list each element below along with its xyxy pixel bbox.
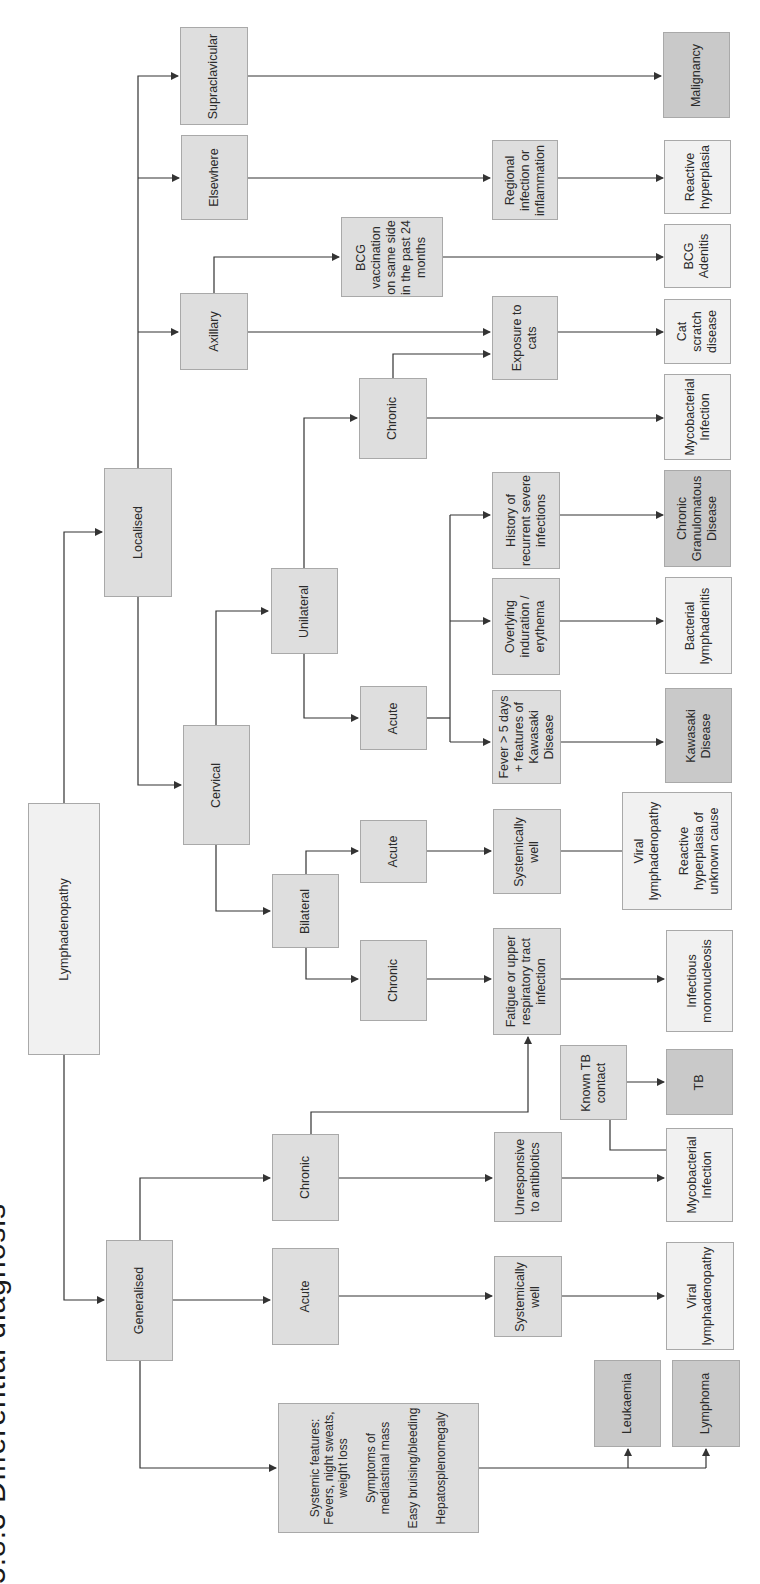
node-chronic-unilateral: Chronic (359, 378, 427, 459)
outcome-tb: TB (666, 1049, 733, 1115)
outcome-kawasaki-disease: Kawasaki Disease (665, 688, 732, 783)
node-fatigue-urti: Fatigue or upper respiratory tract infec… (493, 928, 561, 1035)
outcome-malignancy: Malignancy (663, 32, 730, 118)
outcome-chronic-granulomatous-disease: Chronic Granulomatous Disease (664, 470, 731, 567)
outcome-reactive-hyperplasia: Reactive hyperplasia (664, 140, 731, 214)
outcome-cat-scratch-disease: Cat scratch disease (664, 299, 731, 364)
title-text: 5.8.3 Differential diagnosis (0, 1203, 12, 1584)
node-bilateral: Bilateral (272, 874, 339, 948)
node-acute-generalised: Acute (272, 1248, 339, 1345)
node-regional-infection: Regional infection or inflammation (492, 140, 558, 220)
node-systemically-well-generalised: Systemically well (494, 1256, 562, 1337)
node-overlying-induration: Overlying induration / erythema (492, 578, 560, 675)
outcome-leukaemia: Leukaemia (594, 1360, 661, 1447)
node-bcg-vaccination: BCG vaccination on same side in the past… (341, 217, 443, 297)
outcome-mycobacterial-infection-unilateral: Mycobacterial Infection (664, 374, 731, 460)
node-known-tb-contact: Known TB contact (560, 1045, 627, 1120)
outcome-bacterial-lymphadenitis: Bacterial lymphadenitis (665, 577, 732, 674)
node-acute-bilateral: Acute (360, 820, 427, 883)
node-systemic-features: Systemic features: Fevers, night sweats,… (278, 1403, 479, 1533)
node-systemically-well-bilateral: Systemically well (493, 809, 561, 894)
node-generalised: Generalised (106, 1240, 173, 1361)
outcome-mycobacterial-infection-generalised: Mycobacterial Infection (666, 1128, 733, 1222)
node-lymphadenopathy: Lymphadenopathy (28, 803, 100, 1055)
outcome-viral-reactive-hyperplasia: Viral lymphadenopathy Reactive hyperplas… (622, 792, 732, 910)
node-chronic-bilateral: Chronic (360, 940, 427, 1021)
node-unresponsive-antibiotics: Unresponsive to antibiotics (494, 1132, 562, 1222)
outcome-lymphoma: Lymphoma (672, 1360, 740, 1447)
outcome-infectious-mononucleosis: Infectious mononucleosis (666, 930, 733, 1032)
node-axillary: Axillary (180, 293, 248, 370)
node-elsewhere: Elsewhere (181, 135, 248, 220)
node-chronic-generalised: Chronic (272, 1134, 339, 1221)
node-fever-kawasaki: Fever > 5 days + features of Kawasaki Di… (492, 690, 561, 784)
node-unilateral: Unilateral (271, 568, 338, 654)
page-title: 5.8.3 Differential diagnosis (0, 1150, 18, 1584)
node-acute-unilateral: Acute (360, 686, 427, 750)
node-history-recurrent: History of recurrent severe infections (492, 472, 560, 569)
outcome-bcg-adenitis: BCG Adenitis (664, 224, 731, 288)
node-supraclavicular: Supraclavicular (180, 27, 248, 125)
node-cervical: Cervical (183, 725, 250, 845)
node-localised: Localised (104, 468, 172, 597)
node-exposure-cats: Exposure to cats (492, 296, 558, 380)
differential-diagnosis-flowchart: 5.8.3 Differential diagnosis (0, 0, 760, 1584)
outcome-viral-lymphadenopathy: Viral lymphadenopathy (666, 1242, 734, 1350)
